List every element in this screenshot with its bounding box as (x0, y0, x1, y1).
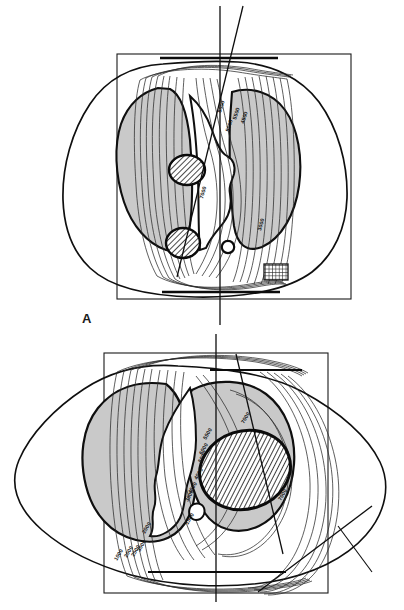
spinal-cord-a (222, 241, 234, 253)
vertebral-body-a (264, 264, 288, 280)
panel-a-label: A (82, 311, 92, 326)
panel-b-drawing: 7000 5500 6000 5000 4000 4500 3000 7000 … (0, 330, 404, 610)
isodose-figure: 6000 5500 5000 4500 7000 3000 A (0, 0, 404, 610)
panel-a-drawing: 6000 5500 5000 4500 7000 3000 (0, 0, 404, 330)
panel-a: 6000 5500 5000 4500 7000 3000 A (0, 0, 404, 330)
target-volume-upper-a (169, 155, 205, 185)
panel-b: 7000 5500 6000 5000 4000 4500 3000 7000 … (0, 330, 404, 610)
